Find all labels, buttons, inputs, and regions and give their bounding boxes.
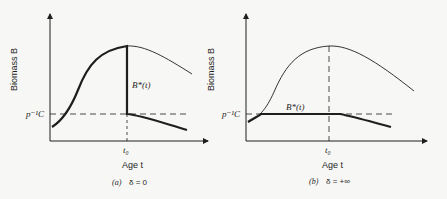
panel-a: Biomass B p⁻¹C B*(t) t₀ Age t (a) δ = 0 [9,14,208,187]
caption-equation: δ = +∞ [326,177,350,186]
caption-equation: δ = 0 [129,178,148,187]
optimal-path-thick [248,114,391,127]
threshold-label: p⁻¹C [221,109,241,119]
biomass-curve-thin [248,46,414,122]
x-axis-label: Age t [322,160,344,170]
t0-label: t₀ [123,145,129,155]
y-axis-label: Biomass B [9,48,19,91]
curve-label: B*(t) [132,80,151,90]
curve-label: B*(t) [286,102,305,112]
biomass-curve-thin [127,46,192,74]
y-axis-label: Biomass B [206,48,216,91]
caption-letter: (a) [112,178,122,187]
diagram-canvas: Biomass B p⁻¹C B*(t) t₀ Age t (a) δ = 0 … [0,0,447,199]
panel-b: Biomass B p⁻¹C B*(t) t₀ Age t (b) δ = +∞ [206,14,427,186]
caption-letter: (b) [309,177,319,186]
x-axis-label: Age t [122,160,144,170]
threshold-label: p⁻¹C [25,109,45,119]
t0-label: t₀ [325,145,331,155]
